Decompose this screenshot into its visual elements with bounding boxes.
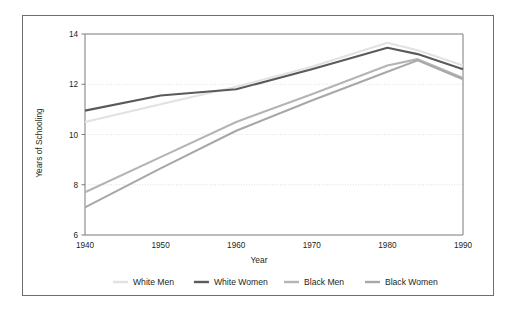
chart-legend: White MenWhite WomenBlack MenBlack Women — [113, 277, 438, 287]
chart-figure-frame: 68101214 194019501960197019801990 Years … — [22, 15, 494, 296]
legend-item-white-men[interactable]: White Men — [113, 277, 174, 287]
y-axis-title: Years of Schooling — [34, 108, 44, 178]
legend-label-black-women: Black Women — [385, 277, 438, 287]
x-tick-labels-group: 194019501960197019801990 — [76, 241, 473, 250]
legend-item-white-women[interactable]: White Women — [194, 277, 268, 287]
series-lines-group — [85, 43, 463, 208]
y-tick-label-10: 10 — [69, 131, 79, 140]
x-tick-label-1940: 1940 — [76, 241, 95, 250]
series-line-black-women — [85, 60, 463, 207]
x-tick-label-1990: 1990 — [454, 241, 473, 250]
legend-label-white-men: White Men — [133, 277, 174, 287]
x-tick-label-1980: 1980 — [378, 241, 397, 250]
line-chart: 68101214 194019501960197019801990 Years … — [23, 16, 495, 297]
x-tick-label-1950: 1950 — [151, 241, 170, 250]
y-tick-label-12: 12 — [69, 80, 79, 89]
y-tick-label-8: 8 — [73, 181, 78, 190]
series-line-white-women — [85, 48, 463, 111]
legend-label-white-women: White Women — [214, 277, 268, 287]
legend-item-black-women[interactable]: Black Women — [365, 277, 438, 287]
x-tick-label-1960: 1960 — [227, 241, 246, 250]
chart-plot-area: 68101214 194019501960197019801990 Years … — [23, 16, 495, 297]
y-tick-labels-group: 68101214 — [69, 30, 79, 240]
x-tick-label-1970: 1970 — [303, 241, 322, 250]
x-axis-title: Year — [251, 255, 268, 265]
legend-label-black-men: Black Men — [304, 277, 344, 287]
series-line-white-men — [85, 43, 463, 122]
y-tick-label-6: 6 — [73, 231, 78, 240]
y-tick-label-14: 14 — [69, 30, 79, 39]
legend-item-black-men[interactable]: Black Men — [284, 277, 344, 287]
